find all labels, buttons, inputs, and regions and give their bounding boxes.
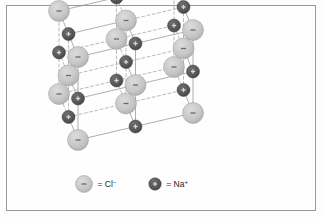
legend-item-sodium: = Na+ [149,178,189,190]
sodium-ion [110,74,123,87]
chloride-ion [116,10,137,31]
chloride-ion [164,57,185,78]
sodium-ion [177,84,190,97]
sodium-ion [53,46,66,59]
nacl-lattice-diagram: = Cl–= Na+ [0,0,322,217]
sodium-ion [129,37,142,50]
legend-item-chloride: = Cl– [76,176,117,193]
chloride-ion [116,93,137,114]
sodium-ion [62,28,75,41]
sodium-ion [177,1,190,14]
sodium-ion [72,92,85,105]
sodium-ion [187,65,200,78]
chloride-ion [68,130,89,151]
legend-label-sodium: = Na+ [166,179,188,189]
chloride-ion [106,29,127,50]
legend-label-chloride: = Cl– [98,179,117,189]
chloride-ion [49,1,70,22]
sodium-ion [62,111,75,124]
chloride-ion [68,47,89,68]
chloride-ion [183,20,204,41]
chloride-ion [125,75,146,96]
chloride-ion [58,65,79,86]
sodium-ion [120,56,133,69]
legend: = Cl–= Na+ [76,176,189,193]
figure-container: = Cl–= Na+ [0,0,322,217]
sodium-ion [168,19,181,32]
chloride-ion [173,38,194,59]
sodium-ion [129,120,142,133]
chloride-ion [49,84,70,105]
sodium-ion [110,0,123,4]
chloride-ion [183,103,204,124]
